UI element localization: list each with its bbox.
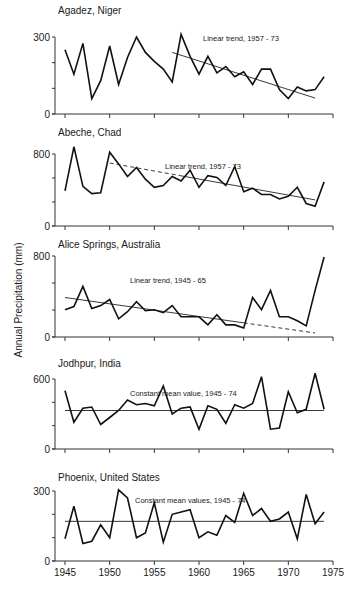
- y-tick-label: 300: [33, 486, 50, 497]
- y-tick-label: 300: [33, 32, 50, 43]
- panel-alice-springs-australia: Alice Springs, Australia0800Linear trend…: [33, 239, 333, 343]
- x-tick-label: 1965: [233, 567, 256, 578]
- y-tick-label: 0: [44, 221, 50, 232]
- panel-title: Phoenix, United States: [58, 472, 160, 483]
- y-tick-label: 0: [44, 109, 50, 120]
- x-tick-label: 1975: [322, 567, 345, 578]
- panel-title: Alice Springs, Australia: [58, 239, 161, 250]
- panel-title: Abeche, Chad: [58, 127, 121, 138]
- x-tick-label: 1955: [143, 567, 166, 578]
- trend-annotation: Constant mean value, 1945 - 74: [130, 389, 237, 398]
- panel-agadez-niger: Agadez, Niger0300Linear trend, 1957 - 73: [33, 5, 333, 120]
- trend-annotation: Linear trend, 1945 - 65: [130, 276, 206, 285]
- precipitation-series: [65, 257, 324, 328]
- precipitation-series: [65, 147, 324, 206]
- y-tick-label: 800: [33, 251, 50, 262]
- panel-phoenix-united-states: Phoenix, United States0300Constant mean …: [33, 472, 333, 567]
- precipitation-multi-panel-chart: Annual Precipitation (mm) Agadez, Niger0…: [0, 0, 359, 599]
- y-tick-label: 800: [33, 149, 50, 160]
- precipitation-series: [65, 373, 324, 429]
- trend-annotation: Linear trend, 1957 - 73: [203, 34, 279, 43]
- y-tick-label: 0: [44, 556, 50, 567]
- panel-title: Agadez, Niger: [58, 5, 122, 16]
- y-tick-label: 0: [44, 444, 50, 455]
- panel-title: Jodhpur, India: [58, 358, 121, 369]
- x-axis-tick-labels: 1945195019551960196519701975: [54, 567, 345, 578]
- panel-abeche-chad: Abeche, Chad0800Linear trend, 1957 - 73: [33, 127, 333, 232]
- y-tick-label: 600: [33, 374, 50, 385]
- x-tick-label: 1945: [54, 567, 77, 578]
- x-tick-label: 1970: [277, 567, 300, 578]
- panels-group: Agadez, Niger0300Linear trend, 1957 - 73…: [33, 5, 333, 567]
- x-tick-label: 1950: [99, 567, 122, 578]
- y-tick-label: 0: [44, 332, 50, 343]
- y-axis-label: Annual Precipitation (mm): [13, 242, 24, 357]
- trend-line: [181, 176, 315, 200]
- trend-annotation: Constant mean values, 1945 - 74: [135, 496, 246, 505]
- panel-jodhpur-india: Jodhpur, India0600Constant mean value, 1…: [33, 358, 333, 455]
- trend-annotation: Linear trend, 1957 - 73: [165, 162, 241, 171]
- x-tick-label: 1960: [188, 567, 211, 578]
